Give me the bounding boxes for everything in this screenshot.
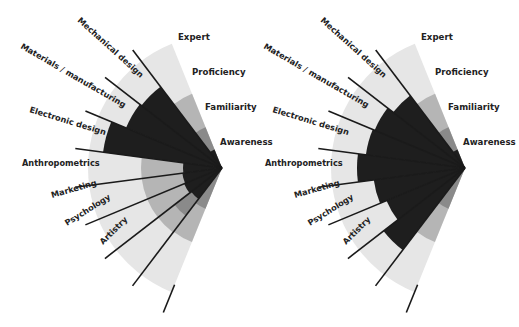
- skill-chart-left: ExpertProficiencyFamiliarityAwarenessMec…: [19, 15, 273, 312]
- chart-canvas: ExpertProficiencyFamiliarityAwarenessMec…: [0, 0, 519, 327]
- category-label: Electronic design: [271, 104, 350, 137]
- category-label: Anthropometrics: [265, 158, 343, 168]
- category-label: Mechanical design: [76, 15, 146, 80]
- scale-label-proficiency: Proficiency: [192, 67, 246, 77]
- skill-fan-charts: ExpertProficiencyFamiliarityAwarenessMec…: [0, 0, 519, 327]
- scale-label-awareness: Awareness: [220, 137, 273, 147]
- category-label: Mechanical design: [319, 15, 389, 80]
- scale-label-expert: Expert: [178, 32, 210, 42]
- scale-label-proficiency: Proficiency: [435, 67, 489, 77]
- category-label: Marketing: [293, 177, 341, 200]
- category-label: Electronic design: [28, 104, 107, 137]
- category-label: Anthropometrics: [22, 158, 100, 168]
- category-label: Marketing: [50, 177, 98, 200]
- scale-label-expert: Expert: [421, 32, 453, 42]
- scale-label-familiarity: Familiarity: [448, 102, 500, 112]
- skill-chart-right: ExpertProficiencyFamiliarityAwarenessMec…: [262, 15, 516, 312]
- scale-label-familiarity: Familiarity: [205, 102, 257, 112]
- scale-label-awareness: Awareness: [463, 137, 516, 147]
